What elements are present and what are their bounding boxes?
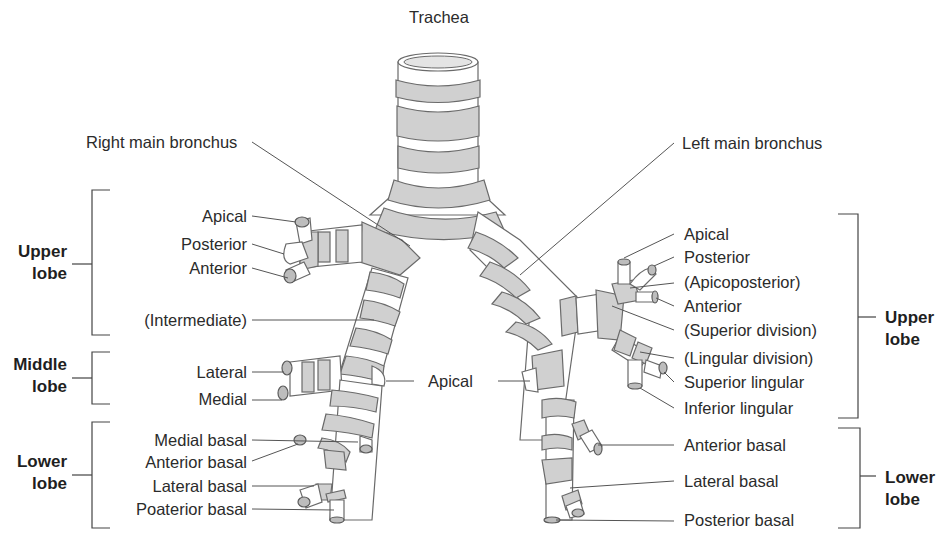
right-upper-lobe-line2: lobe xyxy=(18,263,67,285)
left-lower-lateral-basal-label: Lateral basal xyxy=(684,473,778,490)
right-upper-lobe-label: Upper lobe xyxy=(18,241,67,285)
right-lower-lobe-line2: lobe xyxy=(17,473,67,495)
left-upper-apical-label: Apical xyxy=(684,226,729,243)
left-upper-lingular-division-label: (Lingular division) xyxy=(684,350,813,367)
left-upper-anterior-label: Anterior xyxy=(684,298,742,315)
right-upper-posterior-label: Posterior xyxy=(181,236,247,253)
right-upper-lobe-line1: Upper xyxy=(18,241,67,263)
bronchial-tree-illustration xyxy=(0,0,946,540)
left-lower-posterior-basal-label: Posterior basal xyxy=(684,512,794,529)
right-intermediate-label: (Intermediate) xyxy=(144,312,247,329)
right-middle-lateral-label: Lateral xyxy=(197,364,247,381)
trachea-drawing xyxy=(370,53,505,240)
right-intermediate-bronchus-drawing xyxy=(340,268,408,386)
right-lower-lobe-line1: Lower xyxy=(17,451,67,473)
right-middle-lobe-line1: Middle xyxy=(13,354,67,376)
left-upper-superior-lingular-label: Superior lingular xyxy=(684,374,804,391)
left-lower-lobe-line1: Lower xyxy=(885,467,935,489)
left-main-bronchus-label: Left main bronchus xyxy=(682,135,822,152)
right-lower-medial-basal-label: Medial basal xyxy=(154,432,247,449)
right-middle-lobe-label: Middle lobe xyxy=(13,354,67,398)
trachea-label: Trachea xyxy=(409,9,469,26)
left-upper-superior-division-label: (Superior division) xyxy=(684,322,817,339)
left-upper-posterior-label: Posterior xyxy=(684,249,750,266)
right-lower-lobe-drawing xyxy=(294,380,382,523)
right-middle-lobe-line2: lobe xyxy=(13,376,67,398)
right-main-bronchus-label: Right main bronchus xyxy=(86,134,237,151)
left-upper-lobe-line2: lobe xyxy=(885,329,934,351)
right-lower-posterior-basal-label: Poaterior basal xyxy=(136,501,247,518)
left-upper-apicoposterior-label: (Apicoposterior) xyxy=(684,274,800,291)
left-upper-lobe-line1: Upper xyxy=(885,307,934,329)
left-lower-lobe-line2: lobe xyxy=(885,489,935,511)
left-lower-lobe-drawing xyxy=(542,398,602,523)
left-lower-anterior-basal-label: Anterior basal xyxy=(684,437,786,454)
right-lower-lateral-basal-label: Lateral basal xyxy=(153,478,247,495)
left-upper-lobe-label: Upper lobe xyxy=(885,307,934,351)
left-lower-lobe-label: Lower lobe xyxy=(885,467,935,511)
right-upper-anterior-label: Anterior xyxy=(189,260,247,277)
bronchial-tree-diagram: Trachea Right main bronchus Left main br… xyxy=(0,0,946,540)
right-upper-apical-label: Apical xyxy=(202,208,247,225)
apical-center-label: Apical xyxy=(428,373,473,390)
left-upper-inferior-lingular-label: Inferior lingular xyxy=(684,400,793,417)
right-lower-anterior-basal-label: Anterior basal xyxy=(145,454,247,471)
left-upper-lobe-drawing xyxy=(560,259,667,389)
right-lower-lobe-label: Lower lobe xyxy=(17,451,67,495)
right-middle-medial-label: Medial xyxy=(198,391,247,408)
